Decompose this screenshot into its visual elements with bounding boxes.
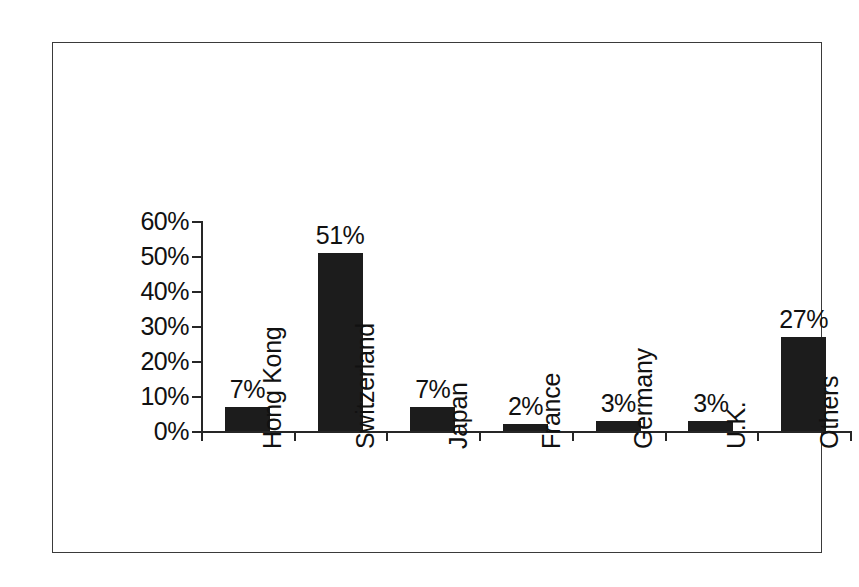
x-axis-tick — [386, 431, 388, 441]
y-axis-tick — [192, 326, 201, 328]
y-axis-tick-label: 0% — [154, 417, 189, 446]
x-axis-tick — [850, 431, 852, 441]
x-axis-category-label: Germany — [629, 348, 658, 449]
x-axis-category-label: Japan — [444, 382, 473, 449]
y-axis-tick-label: 20% — [140, 347, 189, 376]
x-axis-tick — [665, 431, 667, 441]
y-axis-tick — [192, 361, 201, 363]
x-axis-category-label: Others — [815, 376, 844, 449]
y-axis-tick — [192, 396, 201, 398]
x-axis-category-label: France — [537, 373, 566, 449]
bar-value-label: 27% — [779, 305, 828, 334]
x-axis-category-label: Switzerland — [351, 323, 380, 449]
x-axis-category-label: U.K. — [722, 402, 751, 449]
y-axis-line — [201, 221, 203, 431]
y-axis-tick-label: 40% — [140, 277, 189, 306]
x-axis-tick — [201, 431, 203, 441]
figure-border: 0%10%20%30%40%50%60% 7%51%7%2%3%3%27% Ho… — [52, 42, 822, 553]
y-axis-tick-label: 10% — [140, 382, 189, 411]
x-axis-category-label: Hong Kong — [258, 327, 287, 449]
y-axis-tick — [192, 256, 201, 258]
x-axis-tick — [294, 431, 296, 441]
y-axis-tick — [192, 221, 201, 223]
y-axis-tick — [192, 431, 201, 433]
y-axis-tick — [192, 291, 201, 293]
y-axis-tick-label: 30% — [140, 312, 189, 341]
x-axis-line — [201, 431, 850, 433]
y-axis-tick-label: 50% — [140, 242, 189, 271]
y-axis-tick-label: 60% — [140, 207, 189, 236]
x-axis-tick — [479, 431, 481, 441]
x-axis-tick — [757, 431, 759, 441]
x-axis-tick — [572, 431, 574, 441]
plot-area: 0%10%20%30%40%50%60% 7%51%7%2%3%3%27% Ho… — [201, 221, 850, 431]
bar-group: 3% — [688, 221, 733, 431]
bar-value-label: 51% — [316, 221, 365, 250]
chart-screenshot: 0%10%20%30%40%50%60% 7%51%7%2%3%3%27% Ho… — [0, 0, 859, 587]
